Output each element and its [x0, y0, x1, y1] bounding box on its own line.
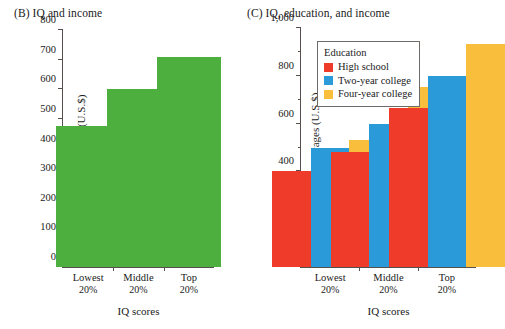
- x-axis-tick: [359, 267, 360, 271]
- y-axis-minor-tick: [298, 51, 301, 52]
- y-axis-tick-label: 0: [51, 251, 56, 262]
- legend-entry: High school: [324, 60, 412, 73]
- y-axis-tick: [58, 59, 63, 60]
- y-axis-tick: [296, 123, 301, 124]
- legend: Education High schoolTwo-year collegeFou…: [317, 41, 420, 107]
- category-sublabel: 20%: [73, 284, 104, 295]
- y-axis-tick-label: 400: [40, 132, 56, 143]
- y-axis-tick-label: 600: [40, 73, 56, 84]
- panel-c-plot-area: Weekly wages (U.S.$) IQ scores 020040060…: [300, 28, 476, 268]
- legend-entries: High schoolTwo-year collegeFour-year col…: [324, 60, 412, 100]
- y-axis-tick-label: 1,000: [270, 12, 294, 23]
- category-name: Middle: [373, 272, 403, 283]
- category-name: Top: [439, 272, 455, 283]
- bar: [389, 108, 428, 267]
- category-sublabel: 20%: [438, 284, 456, 295]
- legend-swatch: [324, 63, 333, 72]
- category-name: Lowest: [315, 272, 346, 283]
- y-axis-tick: [58, 29, 63, 30]
- y-axis-tick-label: 100: [40, 221, 56, 232]
- y-axis-minor-tick: [298, 99, 301, 100]
- panel-b-x-axis-label: IQ scores: [63, 305, 214, 317]
- category-sublabel: 20%: [373, 284, 403, 295]
- bar: [272, 171, 311, 267]
- category-name: Lowest: [73, 272, 104, 283]
- y-axis-minor-tick: [298, 147, 301, 148]
- x-axis-category-label: Top20%: [180, 272, 198, 295]
- x-axis-tick: [113, 267, 114, 271]
- x-axis-category-label: Middle20%: [373, 272, 403, 295]
- category-sublabel: 20%: [315, 284, 346, 295]
- y-axis-tick-label: 600: [278, 107, 294, 118]
- panel-c: (C) IQ, education, and income Weekly wag…: [242, 0, 484, 329]
- x-axis-category-label: Lowest20%: [73, 272, 104, 295]
- legend-swatch: [324, 76, 333, 85]
- x-axis-tick: [418, 267, 419, 271]
- y-axis-tick-label: 800: [278, 59, 294, 70]
- legend-entry: Two-year college: [324, 74, 412, 87]
- y-axis-tick-label: 500: [40, 102, 56, 113]
- category-name: Middle: [123, 272, 153, 283]
- y-axis-tick-label: 400: [278, 155, 294, 166]
- y-axis-tick-label: 300: [40, 162, 56, 173]
- category-sublabel: 20%: [180, 284, 198, 295]
- legend-swatch: [324, 90, 333, 99]
- panel-c-title: (C) IQ, education, and income: [247, 7, 390, 19]
- y-axis-tick: [58, 118, 63, 119]
- panel-c-x-axis-label: IQ scores: [301, 305, 476, 317]
- y-axis-tick: [296, 27, 301, 28]
- x-axis-category-label: Top20%: [438, 272, 456, 295]
- y-axis-tick-label: 800: [40, 14, 56, 25]
- bar: [428, 76, 467, 267]
- panel-b-plot-area: Weekly wages (U.S.$) IQ scores 010020030…: [62, 30, 214, 268]
- panel-b: (B) IQ and income Weekly wages (U.S.$) I…: [0, 0, 242, 329]
- bar: [466, 44, 505, 267]
- legend-title: Education: [324, 46, 412, 59]
- x-axis-category-label: Lowest20%: [315, 272, 346, 295]
- x-axis-category-label: Middle20%: [123, 272, 153, 295]
- y-axis-tick: [296, 75, 301, 76]
- x-axis-tick: [164, 267, 165, 271]
- bar: [331, 152, 370, 267]
- bar: [157, 57, 220, 267]
- legend-label: Two-year college: [338, 74, 411, 87]
- category-sublabel: 20%: [123, 284, 153, 295]
- legend-label: High school: [338, 60, 389, 73]
- y-axis-tick-label: 200: [40, 191, 56, 202]
- legend-label: Four-year college: [338, 87, 412, 100]
- y-axis-tick: [58, 88, 63, 89]
- panel-b-title: (B) IQ and income: [14, 7, 102, 19]
- category-name: Top: [181, 272, 197, 283]
- legend-entry: Four-year college: [324, 87, 412, 100]
- y-axis-tick-label: 700: [40, 43, 56, 54]
